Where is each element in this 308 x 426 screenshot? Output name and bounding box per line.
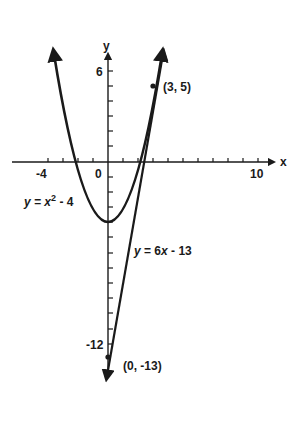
tick-label-10: 10 [250,167,264,181]
tick-label-neg12: -12 [86,338,104,352]
chart-canvas: x y -4 0 10 6 -12 (3, 5) (0, -13) y = x2… [0,0,308,426]
x-axis-label: x [280,155,287,169]
tick-label-6: 6 [96,65,103,79]
line-eq-mid: = 6 [141,244,162,258]
tick-label-0: 0 [95,167,102,181]
line-equation: y = 6x - 13 [133,244,192,258]
tick-label-neg4: -4 [36,167,47,181]
point-tangent-marker [150,83,155,88]
point-intercept-marker [105,354,110,359]
parabola-eq-prefix: y = x [23,195,52,209]
line-eq-end: - 13 [168,244,192,258]
y-ticks [108,71,113,344]
tangent-line [107,54,163,376]
parabola-equation: y = x2 - 4 [23,193,74,209]
y-axis-label: y [103,39,110,53]
annotation-point-0-neg13: (0, -13) [123,359,162,373]
annotation-point-3-5: (3, 5) [163,80,191,94]
parabola-eq-suffix: - 4 [56,195,74,209]
